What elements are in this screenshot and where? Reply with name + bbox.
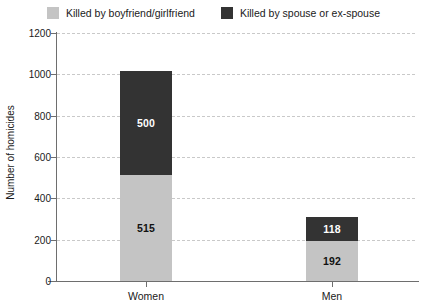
x-tick-mark-women [146, 281, 147, 287]
bar-men-spouse-segment[interactable]: 118 [306, 217, 358, 241]
gridline-1000 [57, 74, 415, 75]
bar-women-partner-value: 515 [137, 222, 155, 234]
y-tick-label-0: 0 [5, 276, 51, 287]
x-tick-label-men: Men [322, 290, 342, 302]
gridline-1200 [57, 33, 415, 34]
y-tick-mark-1200 [51, 33, 56, 34]
legend-swatch-dark-icon [221, 7, 233, 19]
y-tick-mark-200 [51, 240, 56, 241]
legend-label-spouse-ex-spouse: Killed by spouse or ex-spouse [240, 8, 380, 19]
y-tick-mark-1000 [51, 74, 56, 75]
bar-men-partner-segment[interactable]: 192 [306, 241, 358, 281]
y-tick-mark-0 [51, 281, 56, 282]
y-tick-mark-400 [51, 198, 56, 199]
y-tick-mark-800 [51, 116, 56, 117]
y-tick-label-600: 600 [5, 152, 51, 163]
y-axis-line [56, 32, 57, 282]
x-tick-label-women: Women [128, 290, 164, 302]
plot-area: 500 515 118 192 [57, 33, 415, 281]
gridline-400 [57, 198, 415, 199]
y-tick-label-800: 800 [5, 110, 51, 121]
gridline-200 [57, 240, 415, 241]
y-tick-mark-600 [51, 157, 56, 158]
bar-men-partner-value: 192 [323, 255, 341, 267]
chart-container: Killed by boyfriend/girlfriend Killed by… [0, 0, 427, 305]
gridline-600 [57, 157, 415, 158]
gridline-800 [57, 116, 415, 117]
y-tick-label-200: 200 [5, 234, 51, 245]
bar-women-spouse-value: 500 [137, 117, 155, 129]
legend-label-boyfriend-girlfriend: Killed by boyfriend/girlfriend [66, 8, 195, 19]
legend-swatch-light-icon [47, 7, 59, 19]
legend-item-spouse-ex-spouse[interactable]: Killed by spouse or ex-spouse [221, 7, 380, 19]
x-tick-mark-men [332, 281, 333, 287]
bar-men-spouse-value: 118 [323, 223, 341, 235]
bar-women-spouse-segment[interactable]: 500 [120, 71, 172, 174]
legend-item-boyfriend-girlfriend[interactable]: Killed by boyfriend/girlfriend [47, 7, 195, 19]
y-tick-label-400: 400 [5, 193, 51, 204]
y-tick-label-1000: 1000 [5, 69, 51, 80]
y-tick-label-1200: 1200 [5, 28, 51, 39]
x-axis-line [48, 281, 419, 282]
bar-women-partner-segment[interactable]: 515 [120, 175, 172, 281]
chart-legend: Killed by boyfriend/girlfriend Killed by… [0, 0, 427, 26]
